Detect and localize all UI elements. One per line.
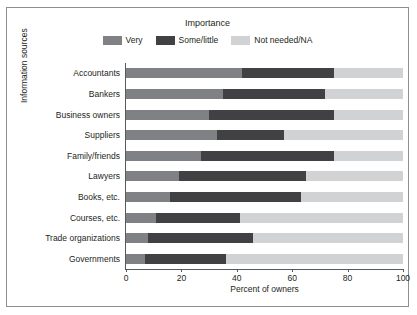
bar-row: Business owners <box>126 110 403 120</box>
chart-figure: Importance Very Some/little Not needed/N… <box>6 7 409 307</box>
x-tick-label: 60 <box>287 273 296 283</box>
bar-segment <box>126 89 223 99</box>
bar-row: Lawyers <box>126 171 403 181</box>
plot-area: AccountantsBankersBusiness ownersSupplie… <box>119 63 403 278</box>
x-tick-mark <box>237 269 238 272</box>
x-tick-mark <box>292 269 293 272</box>
bar-segment <box>126 110 209 120</box>
bar-rows: AccountantsBankersBusiness ownersSupplie… <box>126 63 403 269</box>
bar-row: Books, etc. <box>126 192 403 202</box>
bar-segment <box>253 233 403 243</box>
category-label: Governments <box>69 254 120 264</box>
bar-row: Courses, etc. <box>126 213 403 223</box>
bar-segment <box>170 192 300 202</box>
bar-segment <box>242 68 333 78</box>
bar-segment <box>201 151 334 161</box>
bar-segment <box>126 171 179 181</box>
legend-item-not-needed: Not needed/NA <box>231 35 312 45</box>
bar-row: Bankers <box>126 89 403 99</box>
bar-row: Accountants <box>126 68 403 78</box>
legend-item-very: Very <box>103 35 143 45</box>
bar-row: Governments <box>126 254 403 264</box>
category-label: Family/friends <box>67 151 120 161</box>
legend-swatch-some-little <box>156 36 175 45</box>
x-tick-mark <box>403 269 404 272</box>
bar-row: Family/friends <box>126 151 403 161</box>
legend-swatch-not-needed <box>231 36 250 45</box>
chart-legend: Very Some/little Not needed/NA <box>7 35 408 45</box>
category-label: Lawyers <box>88 171 120 181</box>
x-tick-label: 20 <box>177 273 186 283</box>
bar-segment <box>334 110 403 120</box>
x-tick-label: 40 <box>232 273 241 283</box>
bar-row: Trade organizations <box>126 233 403 243</box>
bar-segment <box>126 130 217 140</box>
bar-segment <box>126 68 242 78</box>
y-axis-title: Information sources <box>19 28 29 103</box>
category-label: Business owners <box>56 110 120 120</box>
bar-segment <box>301 192 403 202</box>
legend-title: Importance <box>7 18 408 28</box>
legend-item-some-little: Some/little <box>156 35 219 45</box>
bar-segment <box>126 233 148 243</box>
category-label: Books, etc. <box>78 192 120 202</box>
legend-label-some-little: Some/little <box>179 35 219 45</box>
bar-segment <box>209 110 334 120</box>
category-label: Courses, etc. <box>70 213 120 223</box>
bar-row: Suppliers <box>126 130 403 140</box>
legend-label-very: Very <box>126 35 143 45</box>
x-tick-mark <box>348 269 349 272</box>
x-tick-mark <box>126 269 127 272</box>
bar-segment <box>226 254 403 264</box>
category-label: Suppliers <box>85 130 120 140</box>
category-label: Bankers <box>89 89 120 99</box>
bar-segment <box>126 151 201 161</box>
x-tick-label: 100 <box>396 273 410 283</box>
bar-segment <box>156 213 239 223</box>
legend-label-not-needed: Not needed/NA <box>254 35 312 45</box>
bar-segment <box>145 254 225 264</box>
x-tick-mark <box>181 269 182 272</box>
bar-segment <box>334 151 403 161</box>
bar-segment <box>325 89 403 99</box>
category-label: Accountants <box>73 68 120 78</box>
bar-segment <box>240 213 403 223</box>
x-axis-title: Percent of owners <box>126 284 403 294</box>
bar-segment <box>284 130 403 140</box>
x-tick-label: 80 <box>343 273 352 283</box>
bar-segment <box>126 213 156 223</box>
bar-segment <box>179 171 306 181</box>
bar-segment <box>148 233 253 243</box>
bar-segment <box>217 130 283 140</box>
bar-segment <box>126 192 170 202</box>
legend-swatch-very <box>103 36 122 45</box>
category-label: Trade organizations <box>45 233 120 243</box>
bar-segment <box>334 68 403 78</box>
bar-segment <box>126 254 145 264</box>
bar-segment <box>223 89 325 99</box>
x-tick-label: 0 <box>124 273 129 283</box>
x-axis-ticks: 020406080100 <box>126 269 403 281</box>
bar-segment <box>306 171 403 181</box>
